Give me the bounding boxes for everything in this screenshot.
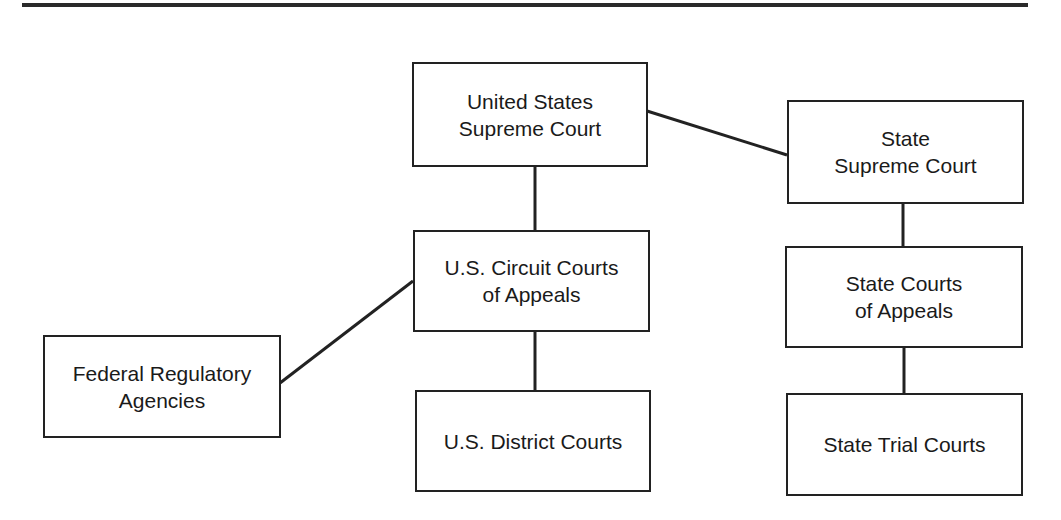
node-us-district-courts: U.S. District Courts [415, 390, 651, 492]
node-label: United States Supreme Court [459, 88, 601, 142]
node-federal-regulatory-agencies: Federal Regulatory Agencies [43, 335, 281, 438]
node-label: State Supreme Court [834, 125, 976, 179]
edge-us-supreme-state-supreme [647, 111, 787, 155]
node-state-supreme-court: State Supreme Court [787, 100, 1024, 204]
node-us-circuit-courts: U.S. Circuit Courts of Appeals [413, 230, 650, 332]
node-label: State Trial Courts [823, 431, 985, 458]
edge-federal-reg-circuit [280, 281, 413, 383]
node-label: Federal Regulatory Agencies [73, 360, 252, 414]
node-us-supreme-court: United States Supreme Court [412, 62, 648, 167]
node-label: U.S. District Courts [444, 428, 623, 455]
node-label: U.S. Circuit Courts of Appeals [445, 254, 619, 308]
node-state-courts-of-appeals: State Courts of Appeals [785, 246, 1023, 348]
node-state-trial-courts: State Trial Courts [786, 393, 1023, 496]
node-label: State Courts of Appeals [846, 270, 963, 324]
